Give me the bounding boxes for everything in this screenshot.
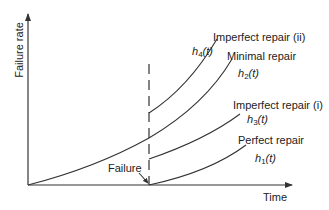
curve-h1-fn: h1(t): [255, 152, 276, 168]
x-axis-label: Time: [263, 191, 287, 203]
curve-h3-name: Imperfect repair (i): [233, 99, 323, 111]
curve-h2-name: Minimal repair: [227, 50, 296, 62]
curve-h4-fn: h4(t): [192, 45, 213, 61]
failure-pointer-arrow: [139, 173, 148, 183]
curve-h2: [149, 59, 232, 138]
curve-h3: [149, 114, 240, 159]
failure-label: Failure: [108, 162, 142, 174]
curve-h4-name: Imperfect repair (ii): [213, 31, 305, 43]
curve-h1: [149, 145, 246, 185]
y-axis-label: Failure rate: [13, 20, 25, 80]
failure-rate-diagram: Failure rate Time Failure Imperfect repa…: [0, 0, 329, 210]
curve-h2-fn: h2(t): [238, 67, 259, 83]
curve-h3-fn: h3(t): [247, 113, 268, 129]
curve-h1-name: Perfect repair: [238, 134, 304, 146]
